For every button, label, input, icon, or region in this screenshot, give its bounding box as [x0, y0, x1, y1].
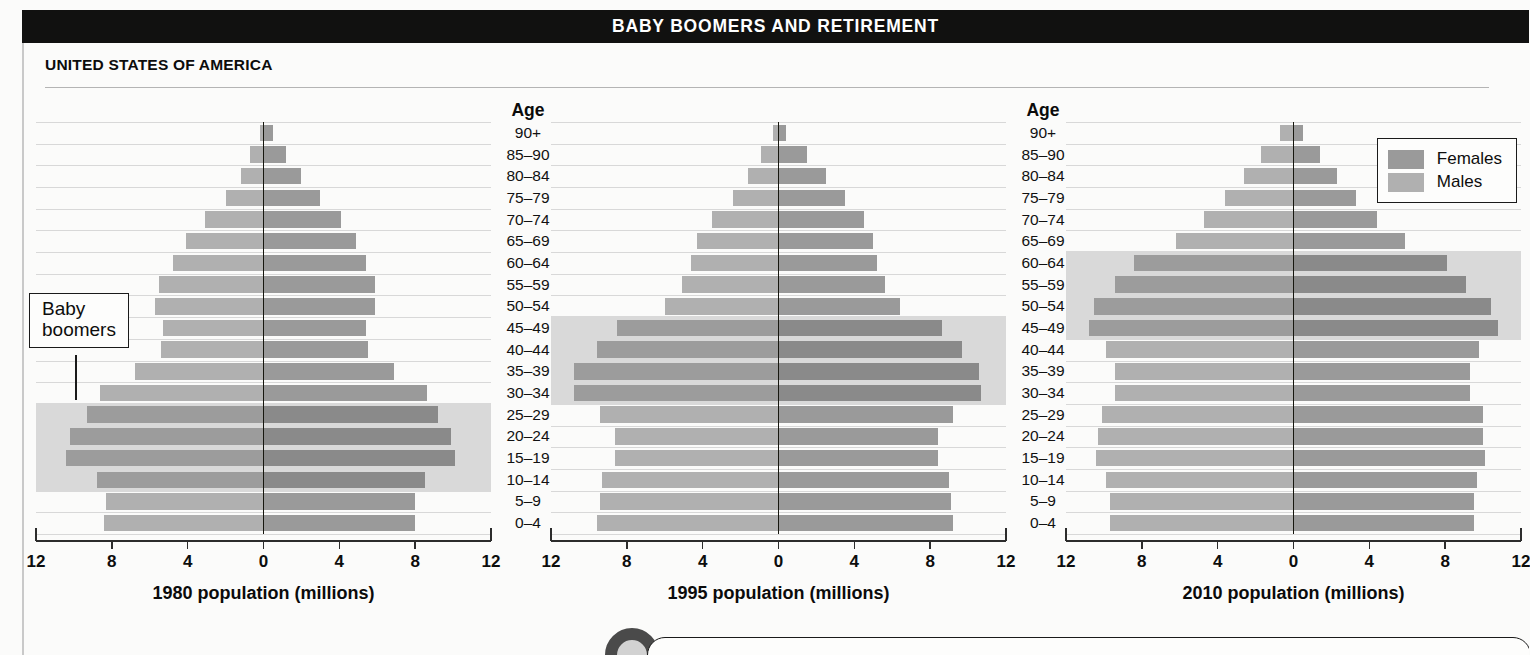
bar-males [159, 276, 263, 292]
bar-males [600, 406, 778, 422]
bar-females [779, 406, 953, 422]
bar-females [1294, 168, 1338, 184]
bar-males [748, 168, 778, 184]
bar-females [779, 276, 885, 292]
age-label: 0–4 [478, 512, 578, 534]
age-label: 60–64 [993, 252, 1093, 274]
bar-males [226, 190, 264, 206]
age-label: 0–4 [993, 512, 1093, 534]
bar-males [1110, 515, 1294, 531]
x-axis-tick-label: 12 [1512, 552, 1530, 572]
x-axis-tick [1217, 540, 1219, 549]
bar-females [1294, 450, 1485, 466]
bar-males [1096, 450, 1293, 466]
bar-females [264, 125, 273, 141]
bar-males [1110, 493, 1294, 509]
legend-label-females: Females [1437, 149, 1502, 169]
age-label: 40–44 [993, 339, 1093, 361]
bar-females [1294, 125, 1303, 141]
bar-males [691, 255, 778, 271]
x-axis-tick-label: 12 [542, 552, 561, 572]
bar-females [264, 298, 376, 314]
bar-females [1294, 211, 1377, 227]
bar-females [264, 233, 357, 249]
age-label: 65–69 [478, 230, 578, 252]
callout-bubble [647, 637, 1529, 655]
bar-males [733, 190, 779, 206]
bar-females [779, 146, 807, 162]
x-axis-title: 1980 population (millions) [36, 583, 491, 604]
bar-females [264, 406, 438, 422]
x-axis-tick [35, 528, 37, 541]
x-axis-tick [929, 540, 931, 549]
age-label: 70–74 [478, 209, 578, 231]
bar-males [70, 428, 263, 444]
bar-males [597, 341, 779, 357]
bar-females [1294, 472, 1478, 488]
x-axis-tick [702, 540, 704, 549]
age-label: 15–19 [993, 447, 1093, 469]
chart-legend: Females Males [1377, 138, 1517, 203]
age-label: 55–59 [993, 274, 1093, 296]
zero-axis-line [778, 122, 780, 534]
bar-females [1294, 320, 1499, 336]
bar-females [779, 255, 878, 271]
x-axis-tick [854, 540, 856, 549]
callout-line-1: Baby [42, 298, 116, 319]
age-label: 50–54 [993, 295, 1093, 317]
pyramid-panel-1980: 1284048121980 population (millions) [36, 100, 491, 620]
bar-females [264, 320, 366, 336]
bar-females [264, 493, 416, 509]
bar-males [100, 385, 263, 401]
bar-females [779, 125, 787, 141]
bottom-callout-partial [605, 624, 1529, 655]
x-axis-tick-label: 0 [259, 552, 268, 572]
bar-females [264, 168, 302, 184]
age-label: 90+ [993, 122, 1093, 144]
x-axis-tick [626, 540, 628, 549]
legend-item-males: Males [1388, 172, 1502, 192]
bar-females [1294, 146, 1321, 162]
age-label: 20–24 [993, 426, 1093, 448]
bar-males [250, 146, 263, 162]
bar-females [779, 363, 980, 379]
age-label: 10–14 [478, 469, 578, 491]
bar-males [1098, 428, 1293, 444]
bar-males [1102, 406, 1293, 422]
bar-males [665, 298, 779, 314]
bar-males [697, 233, 779, 249]
x-axis-tick-label: 8 [1440, 552, 1449, 572]
x-axis-tick [1369, 540, 1371, 549]
bar-males [104, 515, 263, 531]
x-axis-tick-label: 12 [1057, 552, 1076, 572]
bar-females [779, 168, 826, 184]
country-subtitle: UNITED STATES OF AMERICA [45, 56, 273, 74]
bar-females [779, 515, 953, 531]
x-axis-tick [1141, 540, 1143, 549]
bar-males [615, 428, 778, 444]
x-axis-tick [263, 540, 265, 549]
bar-females [779, 298, 900, 314]
population-pyramid-charts: 1284048121980 population (millions)12840… [0, 100, 1529, 620]
bar-males [1134, 255, 1293, 271]
age-label: 35–39 [478, 361, 578, 383]
age-column-header: Age [993, 100, 1093, 121]
age-label: 65–69 [993, 230, 1093, 252]
age-label: 30–34 [993, 382, 1093, 404]
bar-males [574, 385, 779, 401]
bar-females [1294, 255, 1448, 271]
bar-females [1294, 406, 1484, 422]
bar-males [1115, 385, 1293, 401]
age-label: 15–19 [478, 447, 578, 469]
bar-males [1261, 146, 1293, 162]
age-label: 20–24 [478, 426, 578, 448]
subtitle-divider [45, 87, 1489, 88]
callout-line-2: boomers [42, 319, 116, 340]
bar-males [1204, 211, 1293, 227]
bar-males [155, 298, 263, 314]
x-axis-tick-label: 12 [27, 552, 46, 572]
bar-males [597, 515, 779, 531]
bar-females [264, 146, 287, 162]
age-label: 5–9 [478, 491, 578, 513]
